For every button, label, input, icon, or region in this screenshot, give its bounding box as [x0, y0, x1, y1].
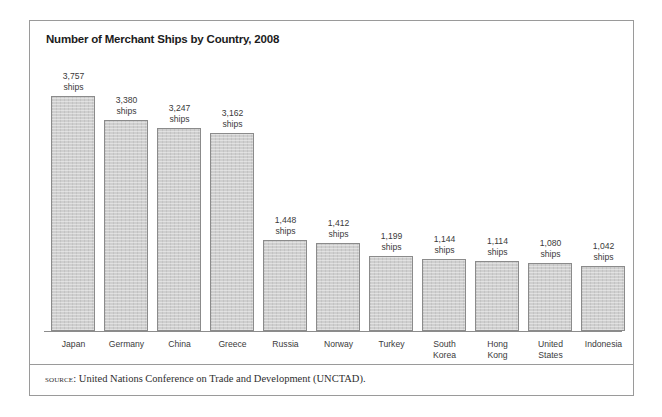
bar-value-number: 1,144	[418, 234, 471, 245]
category-label-line: Germany	[100, 339, 153, 350]
bar-value-number: 3,757	[47, 71, 100, 82]
category-label: Russia	[259, 339, 312, 350]
bar-value-label: 1,114ships	[471, 236, 524, 258]
bar-value-unit: ships	[47, 82, 100, 93]
category-label: Germany	[100, 339, 153, 350]
category-label: SouthKorea	[418, 339, 471, 360]
bar-value-number: 1,080	[524, 238, 577, 249]
bar-value-label: 3,162ships	[206, 108, 259, 130]
bar-value-label: 1,199ships	[365, 231, 418, 253]
bar-group: 1,042ships	[577, 41, 630, 331]
bar-value-label: 3,757ships	[47, 71, 100, 93]
bar[interactable]	[157, 128, 201, 331]
bar-value-number: 1,448	[259, 215, 312, 226]
bar-value-unit: ships	[312, 229, 365, 240]
bar[interactable]	[316, 243, 360, 331]
figure-panel: Number of Merchant Ships by Country, 200…	[29, 20, 634, 396]
bar[interactable]	[369, 256, 413, 331]
bar-value-unit: ships	[524, 249, 577, 260]
bar[interactable]	[581, 266, 625, 331]
bar-value-label: 3,247ships	[153, 103, 206, 125]
category-label-line: Norway	[312, 339, 365, 350]
bar-value-label: 1,412ships	[312, 218, 365, 240]
bar-group: 3,247ships	[153, 41, 206, 331]
bar-group: 1,199ships	[365, 41, 418, 331]
bar-value-label: 1,080ships	[524, 238, 577, 260]
bar-group: 1,080ships	[524, 41, 577, 331]
bar-group: 1,412ships	[312, 41, 365, 331]
bar-value-number: 1,412	[312, 218, 365, 229]
axis-baseline	[44, 331, 622, 332]
bar[interactable]	[51, 96, 95, 331]
bar-group: 1,448ships	[259, 41, 312, 331]
bar-value-label: 1,042ships	[577, 241, 630, 263]
bar-group: 3,757ships	[47, 41, 100, 331]
category-label-line: Turkey	[365, 339, 418, 350]
category-label: Greece	[206, 339, 259, 350]
category-label-line: China	[153, 339, 206, 350]
bar-value-unit: ships	[259, 226, 312, 237]
bar-value-unit: ships	[206, 119, 259, 130]
bar-value-number: 1,114	[471, 236, 524, 247]
bar-group: 3,162ships	[206, 41, 259, 331]
bar-value-number: 3,247	[153, 103, 206, 114]
category-label: China	[153, 339, 206, 350]
bar-value-unit: ships	[153, 114, 206, 125]
bar[interactable]	[263, 240, 307, 331]
bar-group: 1,114ships	[471, 41, 524, 331]
plot-area: 3,757ships3,380ships3,247ships3,162ships…	[30, 21, 635, 364]
bar[interactable]	[210, 133, 254, 331]
category-label-line: Japan	[47, 339, 100, 350]
source-note: source: United Nations Conference on Tra…	[45, 373, 366, 384]
bar-value-number: 1,199	[365, 231, 418, 242]
category-label: Turkey	[365, 339, 418, 350]
bar-value-unit: ships	[471, 247, 524, 258]
bar-value-label: 3,380ships	[100, 95, 153, 117]
bar[interactable]	[422, 259, 466, 331]
bar-value-unit: ships	[418, 245, 471, 256]
source-label: source:	[45, 373, 76, 384]
bar-group: 1,144ships	[418, 41, 471, 331]
category-label-line: Korea	[418, 350, 471, 361]
category-label: UnitedStates	[524, 339, 577, 360]
bar-group: 3,380ships	[100, 41, 153, 331]
category-label-line: Hong	[471, 339, 524, 350]
bar-value-unit: ships	[577, 252, 630, 263]
bar-value-label: 1,144ships	[418, 234, 471, 256]
category-label: Japan	[47, 339, 100, 350]
category-label-line: Russia	[259, 339, 312, 350]
category-label: Indonesia	[577, 339, 630, 350]
category-label-line: Indonesia	[577, 339, 630, 350]
category-label-line: South	[418, 339, 471, 350]
bar-value-unit: ships	[365, 242, 418, 253]
bar-value-number: 3,380	[100, 95, 153, 106]
category-label-line: Greece	[206, 339, 259, 350]
category-label: Norway	[312, 339, 365, 350]
bar-value-number: 1,042	[577, 241, 630, 252]
bar-value-label: 1,448ships	[259, 215, 312, 237]
category-label-line: States	[524, 350, 577, 361]
category-label: HongKong	[471, 339, 524, 360]
category-label-line: United	[524, 339, 577, 350]
category-label-line: Kong	[471, 350, 524, 361]
bar[interactable]	[528, 263, 572, 331]
bar[interactable]	[104, 120, 148, 331]
source-text: United Nations Conference on Trade and D…	[76, 373, 365, 384]
bar[interactable]	[475, 261, 519, 331]
bar-value-number: 3,162	[206, 108, 259, 119]
bar-value-unit: ships	[100, 106, 153, 117]
source-divider	[30, 364, 633, 365]
